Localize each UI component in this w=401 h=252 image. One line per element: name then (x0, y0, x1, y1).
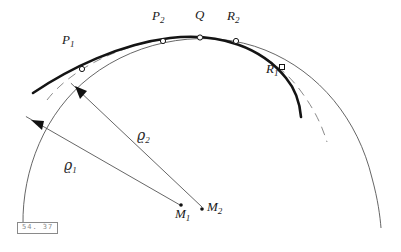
label-M2: M2 (207, 200, 222, 213)
radius-line-rho1 (26, 117, 180, 205)
label-rho1: ϱ1 (64, 158, 77, 173)
label-P2-sub: 2 (160, 15, 165, 25)
radius-line-rho2 (71, 83, 202, 207)
label-R2: R2 (227, 9, 239, 22)
label-Q-base: Q (195, 7, 204, 22)
marker-P2 (160, 38, 165, 43)
label-rho2: ϱ2 (137, 128, 150, 143)
label-P2-base: P (152, 8, 160, 23)
radius-line-rho1-arrowhead (31, 120, 44, 130)
label-rho1-glyph: ϱ (64, 157, 72, 173)
label-M2-sub: 2 (218, 206, 223, 216)
geometry-figure: P1 P2 Q R2 R1 M1 M2 ϱ1 ϱ2 54. 37 (0, 0, 401, 252)
label-M2-base: M (207, 199, 218, 214)
figure-canvas (0, 0, 401, 252)
marker-P1 (79, 66, 84, 71)
label-M1-base: M (175, 206, 186, 221)
marker-M2 (200, 207, 204, 211)
figure-number-text: 54. 37 (22, 223, 53, 231)
label-P1: P1 (62, 33, 74, 46)
label-P1-base: P (62, 32, 70, 47)
label-R1-base: R (266, 61, 274, 76)
label-R1: R1 (266, 62, 278, 75)
label-rho2-sub: 2 (145, 135, 150, 145)
label-P2: P2 (152, 9, 164, 22)
label-R2-sub: 2 (235, 15, 240, 25)
figure-number-box: 54. 37 (17, 222, 58, 234)
label-R1-sub: 1 (274, 68, 279, 78)
marker-Q (197, 35, 202, 40)
label-rho1-sub: 1 (72, 165, 77, 175)
label-P1-sub: 1 (70, 39, 75, 49)
label-M1-sub: 1 (186, 213, 191, 223)
label-R2-base: R (227, 8, 235, 23)
label-M1: M1 (175, 207, 190, 220)
osculating-circle-rho2-arc (47, 37, 327, 142)
marker-R2 (233, 38, 238, 43)
marker-R1 (280, 65, 285, 70)
label-rho2-glyph: ϱ (137, 127, 145, 143)
label-Q: Q (195, 8, 204, 21)
